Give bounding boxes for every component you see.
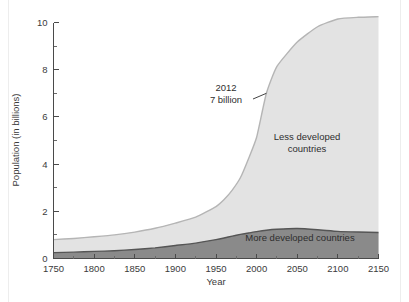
y-axis-title: Population (in billions) — [10, 94, 21, 187]
x-tick-label: 1850 — [124, 263, 145, 274]
callout-line2: 7 billion — [210, 94, 242, 105]
callout-line1: 2012 — [215, 82, 236, 93]
figure-canvas: 0246810 17501800185019001950200020502100… — [0, 0, 409, 302]
x-tick-label: 2050 — [287, 263, 308, 274]
2012-7-billion-callout: 2012 7 billion — [210, 82, 267, 105]
less-developed-countries-label-line1: Less developed — [274, 131, 341, 142]
less-developed-countries-label-line2: countries — [288, 143, 327, 154]
x-tick-label: 1800 — [84, 263, 105, 274]
y-axis-tick-labels: 0246810 — [37, 17, 48, 264]
x-axis-title: Year — [206, 276, 225, 287]
y-tick-label: 2 — [42, 206, 47, 217]
y-tick-label: 10 — [37, 17, 48, 28]
y-tick-label: 4 — [42, 159, 47, 170]
x-tick-label: 2150 — [368, 263, 389, 274]
more-developed-countries-label: More developed countries — [245, 232, 355, 243]
x-tick-label: 2100 — [327, 263, 348, 274]
x-axis-tick-labels: 175018001850190019502000205021002150 — [43, 263, 389, 274]
population-area-chart: 0246810 17501800185019001950200020502100… — [0, 0, 409, 302]
x-tick-label: 2000 — [246, 263, 267, 274]
x-tick-label: 1900 — [165, 263, 186, 274]
callout-leader-line — [253, 93, 266, 99]
x-tick-label: 1750 — [43, 263, 64, 274]
y-tick-label: 8 — [42, 64, 47, 75]
y-axis-ticks — [54, 23, 59, 259]
y-tick-label: 6 — [42, 111, 47, 122]
x-tick-label: 1950 — [205, 263, 226, 274]
